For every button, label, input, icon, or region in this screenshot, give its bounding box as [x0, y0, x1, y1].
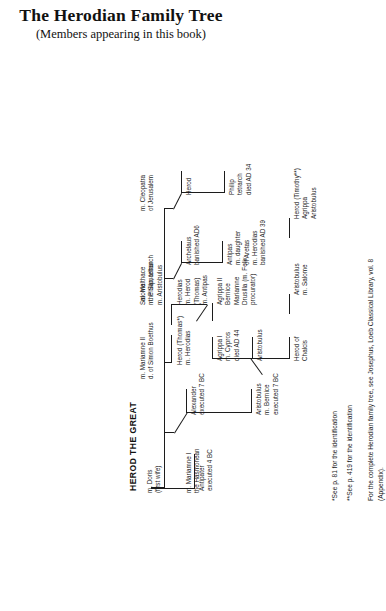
grandchild-herodias: Herodias m. Herod (Thomas) m. Antipas — [176, 251, 209, 305]
branch-doris-drop — [164, 488, 195, 489]
footnote-1: *See p. 81 for the identification — [330, 271, 340, 501]
line-herod-thomas — [171, 335, 172, 363]
branch-malthace-drop — [164, 278, 173, 279]
child-antipas: Antipas m. daughter of Aretas m. Herodia… — [226, 207, 267, 265]
line-antipas — [222, 241, 223, 263]
marriage-doris: m. Doris (first wife) — [146, 433, 163, 493]
line-aristobulus — [251, 389, 252, 413]
marriage-spine — [164, 209, 165, 489]
child-herod-thomas: Herod (Thomas*) m. Herodias — [176, 301, 193, 365]
branch-mariamne1-drop — [164, 432, 174, 433]
grandchild-agrippa-i: Agrippa I m. Cypros died AD 44 — [216, 305, 241, 361]
line-agrippa-ii — [212, 303, 213, 321]
line-agrippa-i — [212, 337, 213, 359]
line-salome — [171, 305, 172, 325]
child-aristobulus: Aristobulus m. Bernice executed 7 BC — [255, 355, 280, 415]
branch-cleopatra-drop — [164, 208, 173, 209]
footnote-3: For the complete Herodian family tree, s… — [366, 71, 386, 501]
line-philip — [224, 171, 225, 193]
child-herod: Herod — [185, 145, 193, 195]
herodias-spine — [171, 304, 207, 305]
greatgrandchild-aristobulus-salome: Aristobulus m. Salome — [293, 235, 310, 295]
footnote-2: **See p. 419 for the identification — [345, 271, 355, 501]
line-herod-chalcis — [289, 337, 290, 359]
line-herod-timothy — [289, 218, 290, 238]
child-antipater: Antipater executed 4 BC — [198, 429, 215, 491]
line-aristobulus-2 — [252, 337, 253, 359]
grandchild-herod-of-chalcis: Herod of Chalcis — [293, 313, 310, 361]
line-herod-c — [181, 171, 182, 193]
greatgreatgrandchild-herod-timothy: Herod (Timothy**) Agrippa Aristobulus — [293, 141, 318, 219]
line-aristobulus-salome — [289, 294, 290, 314]
line-alexander — [186, 389, 187, 413]
patriarch-label: HEROD THE GREAT — [128, 402, 138, 491]
marriage-cleopatra: m. Cleopatra of Jerusalem — [139, 145, 156, 211]
herodias-connector — [196, 304, 208, 321]
branch-cleopatra-diagonal — [173, 193, 182, 209]
branch-doris-run — [194, 454, 195, 489]
child-philip: Philip tetrarch died AD 34 — [228, 141, 253, 195]
grandchild-aristobulus: Aristobulus — [256, 307, 264, 361]
grandchild-salome: Salome m. Philip, tetrarch m. Aristobulu… — [139, 231, 164, 305]
marriage-mariamne-ii: m. Mariamne II d. of Simon Boethus — [139, 301, 156, 379]
